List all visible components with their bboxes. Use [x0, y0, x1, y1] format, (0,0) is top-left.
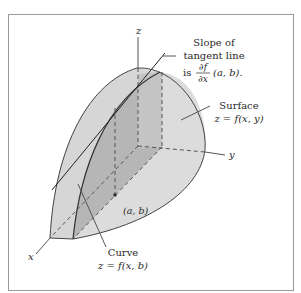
- slope-label-suffix: (a, b).: [213, 67, 243, 78]
- y-axis-label: y: [228, 149, 235, 160]
- slope-label-is: is: [183, 67, 191, 78]
- point-a-b: [113, 193, 117, 197]
- frac-denominator: ∂x: [198, 74, 208, 84]
- slope-label-line1: Slope of: [193, 37, 236, 48]
- point-label: (a, b): [123, 205, 148, 216]
- x-axis-label: x: [28, 251, 34, 262]
- z-axis-label: z: [135, 25, 142, 36]
- curve-label-line1: Curve: [108, 247, 139, 258]
- surface-label-line2: z = f(x, y): [213, 113, 263, 124]
- slope-label-line2: tangent line: [183, 50, 244, 61]
- curve-label-line2: z = f(x, b): [97, 260, 148, 271]
- surface-label-line1: Surface: [219, 100, 258, 111]
- partial-derivative-diagram: z y x (a, b) Slope of tangent line is ∂f…: [0, 0, 301, 293]
